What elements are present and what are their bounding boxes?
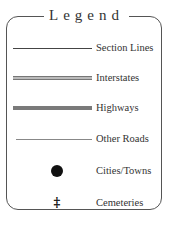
legend-label: Other Roads: [96, 131, 149, 147]
legend-label: Highways: [96, 100, 139, 116]
section-line-icon: [13, 48, 92, 49]
cemetery-cross-icon: ‡: [50, 195, 64, 211]
legend-label: Interstates: [96, 70, 139, 86]
other-road-line-icon: [16, 139, 92, 140]
legend-item-other-roads: Other Roads: [0, 131, 169, 147]
city-dot-icon: [51, 165, 63, 177]
legend-label: Cities/Towns: [96, 163, 151, 179]
highway-line-icon: [13, 106, 92, 110]
legend-item-interstates: Interstates: [0, 70, 169, 86]
legend-item-section-lines: Section Lines: [0, 40, 169, 56]
legend-label: Section Lines: [96, 40, 153, 56]
legend-item-cemeteries: ‡ Cemeteries: [0, 195, 169, 211]
legend-label: Cemeteries: [96, 195, 143, 211]
legend-item-cities-towns: Cities/Towns: [0, 163, 169, 179]
legend-title: Legend: [44, 6, 129, 24]
legend-item-highways: Highways: [0, 100, 169, 116]
interstate-line-icon: [13, 76, 92, 80]
